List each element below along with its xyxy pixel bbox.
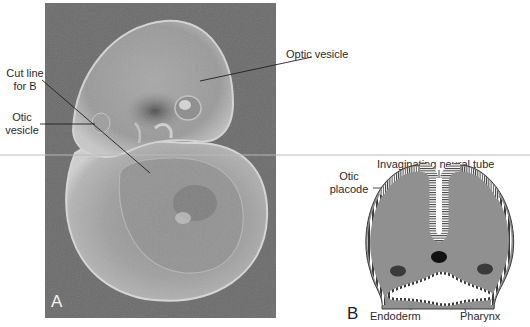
cross-section-diagram (0, 0, 530, 327)
neural-tube-lumen (436, 178, 442, 235)
dark-spot-left (390, 266, 406, 277)
notochord (431, 251, 447, 263)
dark-spot-right (477, 264, 493, 275)
